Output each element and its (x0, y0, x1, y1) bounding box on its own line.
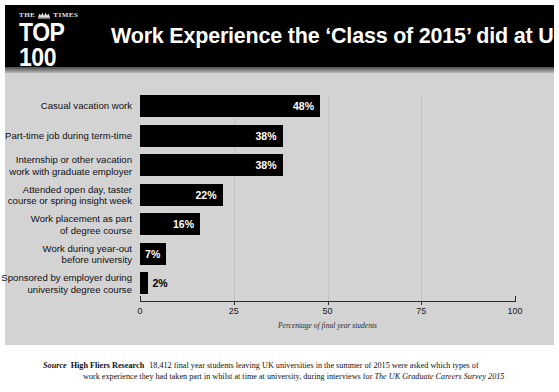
source-line-2: work experience they had taken part in w… (43, 371, 554, 382)
category-label: Sponsored by employer during university … (0, 272, 132, 295)
axis-tick (140, 296, 141, 302)
bar-value-label: 38% (140, 154, 277, 176)
category-label: Work placement as part of degree course (0, 213, 132, 236)
infographic-page: THE TIMES TOP 100 GRADUATE EMPLOYERS Wor… (0, 0, 559, 392)
category-label: Part-time job during term-time (0, 130, 132, 142)
axis-tick-label: 0 (137, 306, 142, 316)
source-text-2: work experience they had taken part in w… (83, 372, 374, 381)
axis-tick (328, 301, 329, 305)
axis-tick (515, 296, 516, 302)
source-text-1: 18,412 final year students leaving UK un… (149, 361, 478, 370)
logo-top100-text: TOP 100 (19, 20, 98, 70)
bar-value-label: 48% (140, 95, 314, 117)
source-footnote-inner: SourceHigh Fliers Research18,412 final y… (5, 360, 554, 382)
bar-row: Part-time job during term-time38% (140, 125, 515, 147)
axis-tick-label: 25 (229, 306, 239, 316)
category-label: Attended open day, taster course or spri… (0, 183, 132, 206)
source-survey-title: The UK Graduate Careers Survey 2015 (374, 372, 504, 381)
header-banner: THE TIMES TOP 100 GRADUATE EMPLOYERS Wor… (5, 5, 554, 67)
axis-tick (234, 301, 235, 305)
category-label: Casual vacation work (0, 100, 132, 112)
bar-value-label: 16% (140, 213, 194, 235)
x-axis-caption: Percentage of final year students (278, 321, 377, 330)
source-organisation: High Fliers Research (71, 361, 145, 370)
bar-row: Attended open day, taster course or spri… (140, 184, 515, 206)
page-title: Work Experience the ‘Class of 2015’ did … (105, 5, 559, 67)
source-line-1: SourceHigh Fliers Research18,412 final y… (43, 360, 554, 371)
axis-tick-label: 100 (507, 306, 522, 316)
plot-region: Casual vacation work48%Part-time job dur… (140, 95, 515, 323)
bar-row: Sponsored by employer during university … (140, 272, 515, 294)
source-footnote: SourceHigh Fliers Research18,412 final y… (5, 349, 554, 387)
bar (140, 272, 148, 294)
axis-tick-label: 50 (322, 306, 332, 316)
axis-tick-label: 75 (416, 306, 426, 316)
bar-rows: Casual vacation work48%Part-time job dur… (140, 95, 515, 301)
bar-value-label: 7% (140, 243, 160, 265)
source-label: Source (43, 361, 67, 370)
bar-row: Internship or other vacation work with g… (140, 154, 515, 176)
axis-tick (421, 301, 422, 305)
bar-row: Casual vacation work48% (140, 95, 515, 117)
bar-row: Work placement as part of degree course1… (140, 213, 515, 235)
times-top100-logo: THE TIMES TOP 100 GRADUATE EMPLOYERS (5, 5, 105, 67)
bar-value-label: 38% (140, 125, 277, 147)
category-label: Work during year-out before university (0, 242, 132, 265)
bar-value-label: 22% (140, 184, 217, 206)
bar-row: Work during year-out before university7% (140, 243, 515, 265)
chart-area: Casual vacation work48%Part-time job dur… (5, 73, 554, 345)
bar-value-label: 2% (153, 272, 168, 294)
category-label: Internship or other vacation work with g… (0, 154, 132, 177)
